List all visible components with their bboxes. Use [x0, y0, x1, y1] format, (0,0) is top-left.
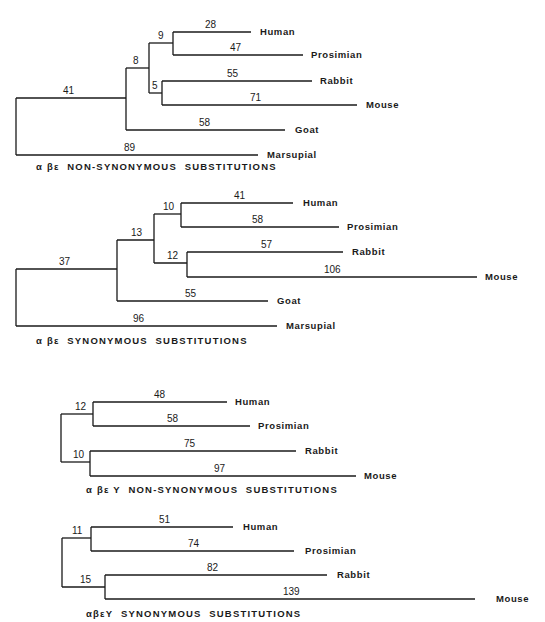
- branch-length-label: 89: [124, 142, 136, 153]
- branch-length-label: 58: [199, 117, 211, 128]
- branch-length-label: 58: [167, 413, 179, 424]
- taxon-label: Marsupial: [286, 320, 336, 331]
- branch-length-label: 106: [324, 264, 341, 275]
- branch-length-label: 13: [131, 227, 143, 238]
- taxon-label: Human: [235, 396, 270, 407]
- taxon-label: Goat: [277, 295, 301, 306]
- taxon-label: Mouse: [366, 99, 399, 110]
- taxon-label: Rabbit: [352, 246, 385, 257]
- tree-2: 371310124158571065596HumanProsimianRabbi…: [16, 190, 518, 346]
- taxon-label: Rabbit: [320, 75, 353, 86]
- taxon-label: Prosimian: [347, 221, 398, 232]
- branch-length-label: 139: [283, 586, 300, 597]
- taxon-label: Prosimian: [305, 545, 356, 556]
- branch-length-label: 8: [133, 55, 139, 66]
- branch-length-label: 41: [234, 190, 246, 201]
- branch-length-label: 12: [75, 401, 87, 412]
- taxon-label: Human: [260, 26, 295, 37]
- tree-1: 41895284755715889HumanProsimianRabbitMou…: [16, 19, 399, 172]
- branch-length-label: 5: [152, 80, 158, 91]
- branch-length-label: 15: [80, 574, 92, 585]
- branch-length-label: 28: [205, 19, 217, 30]
- branch-length-label: 97: [214, 463, 226, 474]
- taxon-label: Prosimian: [258, 420, 309, 431]
- taxon-label: Human: [243, 521, 278, 532]
- branch-length-label: 71: [250, 92, 262, 103]
- branch-length-label: 58: [252, 214, 264, 225]
- tree-caption: α βε Υ NON-SYNONYMOUS SUBSTITUTIONS: [86, 484, 338, 495]
- branch-length-label: 51: [159, 514, 171, 525]
- branch-length-label: 96: [133, 313, 145, 324]
- taxon-label: Rabbit: [305, 445, 338, 456]
- taxon-label: Prosimian: [311, 49, 362, 60]
- branch-length-label: 11: [72, 525, 83, 536]
- tree-caption: αβεΥ SYNONYMOUS SUBSTITUTIONS: [86, 608, 301, 619]
- branch-length-label: 55: [227, 68, 239, 79]
- branch-length-label: 47: [230, 42, 242, 53]
- branch-length-label: 41: [63, 85, 75, 96]
- phylogenetic-tree-figure: 41895284755715889HumanProsimianRabbitMou…: [0, 0, 545, 622]
- taxon-label: Mouse: [496, 593, 529, 604]
- tree-canvas: 41895284755715889HumanProsimianRabbitMou…: [0, 0, 545, 622]
- branch-length-label: 82: [207, 562, 219, 573]
- taxon-label: Rabbit: [337, 569, 370, 580]
- branch-length-label: 75: [184, 438, 196, 449]
- branch-length-label: 74: [188, 538, 200, 549]
- taxon-label: Mouse: [485, 271, 518, 282]
- tree-caption: α βε SYNONYMOUS SUBSTITUTIONS: [36, 335, 248, 346]
- branch-length-label: 57: [261, 239, 273, 250]
- branch-length-label: 10: [73, 449, 85, 460]
- branch-length-label: 9: [158, 30, 164, 41]
- taxon-label: Marsupial: [267, 149, 317, 160]
- taxon-label: Mouse: [364, 470, 397, 481]
- tree-caption: α βε NON-SYNONYMOUS SUBSTITUTIONS: [36, 161, 277, 172]
- taxon-label: Human: [303, 197, 338, 208]
- tree-4: 1115517482139HumanProsimianRabbitMouseαβ…: [62, 514, 529, 619]
- branch-length-label: 48: [154, 389, 166, 400]
- branch-length-label: 37: [59, 256, 71, 267]
- branch-length-label: 55: [185, 288, 197, 299]
- taxon-label: Goat: [295, 124, 319, 135]
- branch-length-label: 12: [167, 250, 179, 261]
- tree-3: 121048587597HumanProsimianRabbitMouseα β…: [61, 389, 397, 495]
- branch-length-label: 10: [163, 201, 175, 212]
